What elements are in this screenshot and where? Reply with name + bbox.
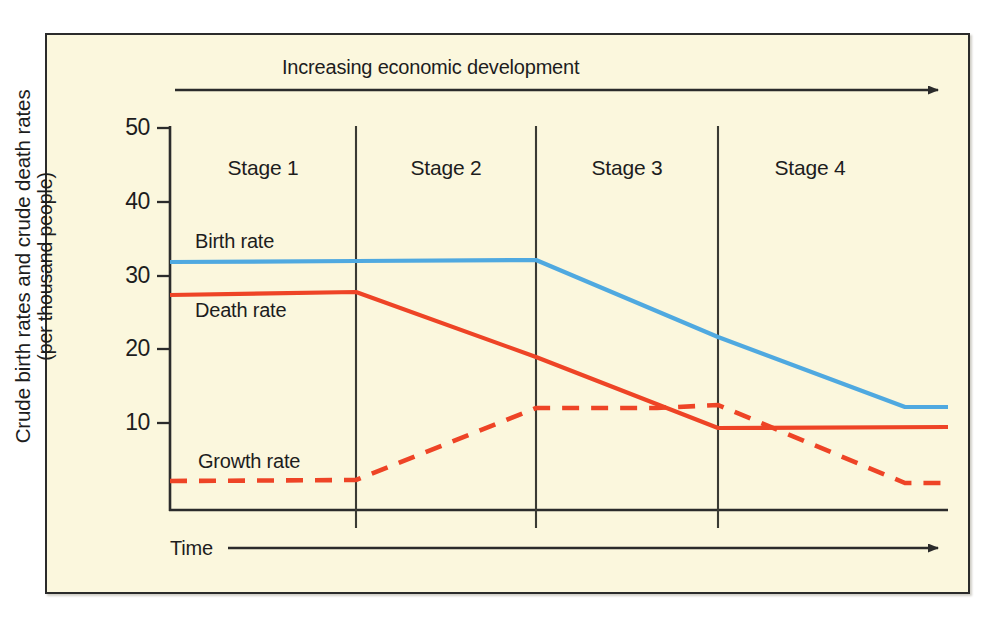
y-axis-title: Crude birth rates and crude death rates …	[12, 56, 57, 476]
growth-rate-label: Growth rate	[198, 450, 300, 473]
death-rate-line	[170, 292, 948, 428]
stage-divider-lines	[356, 126, 718, 528]
y-tick-label-10: 10	[104, 409, 150, 436]
stage-label-2: Stage 2	[376, 156, 516, 180]
stage-label-1: Stage 1	[193, 156, 333, 180]
figure-root: Increasing economic development Crude bi…	[0, 0, 996, 621]
stage-label-3: Stage 3	[557, 156, 697, 180]
y-axis-ticks	[157, 128, 170, 423]
stage-label-4: Stage 4	[740, 156, 880, 180]
birth-rate-label: Birth rate	[195, 230, 274, 253]
y-tick-label-50: 50	[104, 114, 150, 141]
y-tick-label-30: 30	[104, 262, 150, 289]
time-axis-label: Time	[170, 537, 213, 560]
birth-rate-line	[170, 260, 948, 407]
economic-development-caption: Increasing economic development	[282, 56, 579, 79]
y-tick-label-20: 20	[104, 335, 150, 362]
death-rate-label: Death rate	[195, 299, 286, 322]
y-axis-title-line-2: (per thousand people)	[35, 56, 57, 476]
y-tick-label-40: 40	[104, 188, 150, 215]
y-axis-title-line-1: Crude birth rates and crude death rates	[12, 56, 35, 476]
chart-canvas	[0, 0, 996, 621]
